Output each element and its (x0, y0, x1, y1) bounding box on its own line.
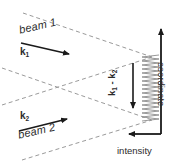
k1-subscript: 1 (26, 51, 30, 58)
intensity-axis-label: intensity (117, 146, 152, 156)
k2-subscript: 2 (26, 115, 30, 122)
k1-label: k1 (20, 47, 29, 57)
coordinate-axis-label: coordinate (157, 62, 167, 106)
kdiff-subscript-1: 1 (111, 87, 118, 91)
k1-symbol: k (20, 46, 26, 57)
k2-symbol: k (20, 110, 26, 121)
kdiff-subscript-2: 2 (111, 70, 118, 74)
kdiff-operator: - (106, 79, 117, 87)
grating-vector-label: k1 - k2 (107, 70, 117, 96)
k2-label: k2 (20, 111, 29, 121)
interference-diagram: beam 1 beam 2 k1 k2 k1 - k2 coordinate i… (0, 0, 189, 167)
kdiff-symbol-1: k (106, 91, 117, 96)
kdiff-symbol-2: k (106, 73, 117, 78)
